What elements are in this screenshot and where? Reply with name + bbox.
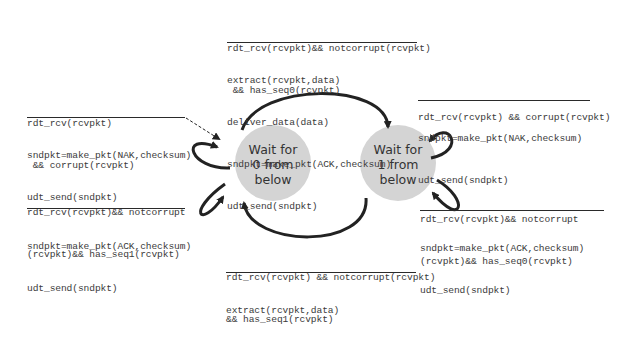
action-line: sndpkt=make_pkt(NAK,checksum) xyxy=(418,132,582,146)
action-line: sndpkt=make_pkt(ACK,checksum) xyxy=(227,158,391,172)
transition-left-lower-divider xyxy=(27,208,185,209)
action-line: udt_send(sndpkt) xyxy=(227,200,391,214)
transition-top-divider xyxy=(227,42,417,43)
action-line: udt_send(sndpkt) xyxy=(27,282,191,296)
self-loop-arrow-left-upper xyxy=(193,143,230,168)
transition-right-upper-divider xyxy=(418,100,590,101)
action-line: udt_send(sndpkt) xyxy=(420,284,584,298)
transition-right-lower-divider xyxy=(420,210,604,211)
action-line: sndpkt=make_pkt(ACK,checksum) xyxy=(27,240,191,254)
action-line: sndpkt=make_pkt(NAK,checksum) xyxy=(27,149,191,163)
action-line: deliver_data(data) xyxy=(227,116,391,130)
transition-bottom-divider xyxy=(226,272,416,273)
self-loop-arrow-left-lower xyxy=(201,184,225,215)
action-line: sndpkt=make_pkt(ACK,checksum) xyxy=(420,242,584,256)
transition-left-upper-divider xyxy=(27,117,185,118)
transition-bottom-actions: extract(rcvpkt,data) deliver_data(data) … xyxy=(226,276,390,341)
transition-right-lower-actions: sndpkt=make_pkt(ACK,checksum) udt_send(s… xyxy=(420,214,584,312)
action-line: extract(rcvpkt,data) xyxy=(226,304,390,318)
transition-top-actions: extract(rcvpkt,data) deliver_data(data) … xyxy=(227,46,391,228)
action-line: extract(rcvpkt,data) xyxy=(227,74,391,88)
transition-left-lower-actions: sndpkt=make_pkt(ACK,checksum) udt_send(s… xyxy=(27,212,191,310)
